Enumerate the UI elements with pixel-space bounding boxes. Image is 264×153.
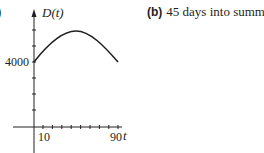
panel-b-question: (b)45 days into summer bbox=[147, 4, 264, 20]
curve-D-of-t bbox=[34, 31, 118, 62]
x-tick-label-10: 10 bbox=[38, 130, 50, 145]
x-tick-label-90: 90 bbox=[110, 130, 122, 145]
chart-plot-area: D(t) 4000 10 90 t bbox=[0, 0, 140, 153]
x-axis-label: t bbox=[123, 128, 127, 144]
panel-b-label: (b) bbox=[147, 5, 162, 19]
panel-b-text: 45 days into summer bbox=[166, 4, 264, 19]
y-axis-label: D(t) bbox=[42, 5, 64, 21]
y-axis-arrow-icon bbox=[32, 9, 37, 17]
y-tick-label-4000: 4000 bbox=[5, 55, 29, 70]
